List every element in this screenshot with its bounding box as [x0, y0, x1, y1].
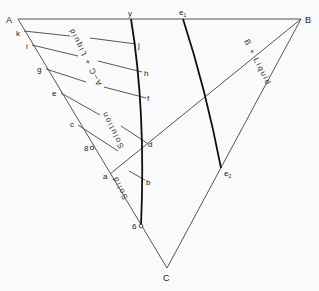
point-f-label: f: [147, 94, 150, 103]
vertex-a-label: A: [6, 15, 12, 25]
point-e2-label: e2: [224, 169, 231, 179]
curve-y-6: [131, 19, 142, 226]
region-solution-label: Solution: [100, 109, 126, 150]
vertex-c-label: C: [163, 273, 170, 283]
point-g-label: g: [37, 65, 41, 74]
vertex-b-label: B: [305, 15, 311, 25]
point-8-marker: [90, 146, 94, 150]
tie-k-j-2: [90, 38, 136, 44]
point-e1-label: e1: [179, 8, 186, 18]
curve-e1-e2: [183, 19, 221, 168]
point-a-label: a: [103, 172, 108, 181]
edge-ac: [18, 19, 167, 268]
point-c-label: c: [70, 120, 74, 129]
point-j-label: j: [137, 41, 140, 50]
point-k-label: k: [16, 29, 21, 38]
point-i-label: i: [26, 42, 28, 51]
tie-e-d-1: [61, 93, 100, 115]
point-6-marker: [139, 224, 143, 228]
tie-i-h-2: [98, 61, 142, 72]
point-y-label: y: [128, 9, 132, 18]
tie-k-j-1: [24, 31, 70, 36]
point-h-label: h: [144, 69, 148, 78]
region-solid-label: Solid: [111, 174, 130, 201]
point-8-label: 8: [84, 144, 89, 153]
tie-e-d-2: [121, 126, 147, 143]
point-b-label: b: [146, 178, 151, 187]
edge-bc: [167, 19, 301, 268]
ternary-diagram: A B C y e1 e2 k i g e c 8 a 6 j h f d b …: [0, 0, 319, 291]
point-e-label: e: [52, 89, 57, 98]
point-d-label: d: [148, 140, 152, 149]
region-ac-liquid-label: A–C + Liquid: [67, 26, 104, 87]
point-6-label: 6: [132, 222, 137, 231]
